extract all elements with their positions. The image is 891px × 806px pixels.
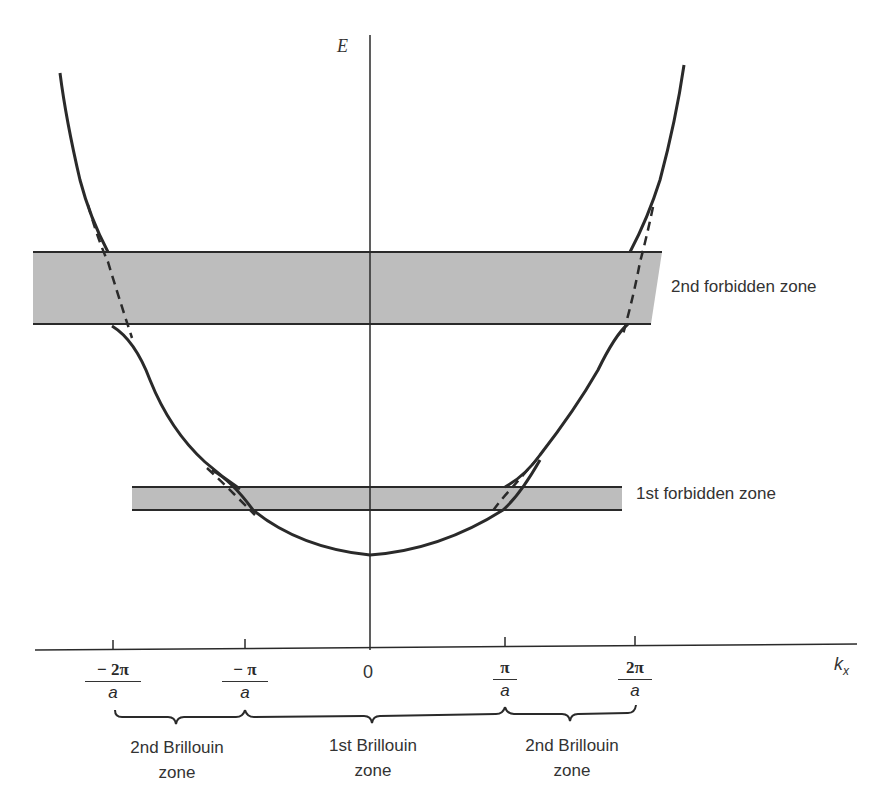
bz-second-left-line1: 2nd Brillouin (97, 735, 257, 760)
first-forbidden-zone-band (132, 487, 622, 510)
k-axis-label-main: k (834, 654, 843, 674)
bz-second-right-line1: 2nd Brillouin (492, 733, 652, 758)
tick-negpi-numerator: − π (222, 660, 268, 682)
second-forbidden-zone-label: 2nd forbidden zone (671, 277, 817, 297)
second-band-left-curve (112, 326, 240, 489)
brace-second-right (505, 705, 636, 721)
second-forbidden-zone-band (33, 252, 662, 324)
tick-label-zero: 0 (363, 662, 373, 683)
brillouin-zone-braces (115, 705, 636, 724)
first-forbidden-zone-text: 1st forbidden zone (636, 484, 776, 503)
tick-label-pi: π a (493, 658, 517, 701)
tick-zero-text: 0 (363, 662, 373, 682)
tick-2pi-numerator: 2π (618, 658, 652, 680)
brillouin-zone-label-second-right: 2nd Brillouin zone (492, 733, 652, 783)
tick-negpi-denominator: a (222, 682, 268, 703)
tick-2pi-denominator: a (618, 680, 652, 701)
tick-label-neg2pi: − 2π a (85, 660, 141, 703)
tick-neg2pi-denominator: a (85, 682, 141, 703)
bz-second-left-line2: zone (97, 760, 257, 778)
first-forbidden-zone-label: 1st forbidden zone (636, 484, 776, 504)
brace-first (245, 707, 505, 723)
brillouin-zone-label-first: 1st Brillouin zone (293, 733, 453, 783)
k-axis-label-sub: x (843, 664, 849, 678)
tick-neg2pi-numerator: − 2π (85, 660, 141, 682)
second-forbidden-zone-text: 2nd forbidden zone (671, 277, 817, 296)
k-axis-label: kx (834, 654, 849, 678)
brillouin-zone-label-second-left: 2nd Brillouin zone (97, 735, 257, 778)
energy-axis-label: E (337, 36, 348, 57)
brace-second-left (115, 710, 245, 724)
bz-first-line1: 1st Brillouin (293, 733, 453, 758)
k-axis (35, 644, 857, 650)
third-band-right-curve (630, 65, 684, 252)
third-band-left-curve (60, 73, 108, 252)
bz-first-line2: zone (293, 758, 453, 783)
energy-label-text: E (337, 36, 348, 56)
second-band-right-curve (505, 324, 628, 487)
tick-pi-denominator: a (493, 680, 517, 701)
tick-label-2pi: 2π a (618, 658, 652, 701)
bz-second-right-line2: zone (492, 758, 652, 783)
tick-label-negpi: − π a (222, 660, 268, 703)
tick-pi-numerator: π (493, 658, 517, 680)
